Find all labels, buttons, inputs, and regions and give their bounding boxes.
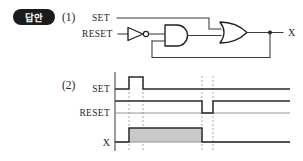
timing-label-x: X: [103, 137, 111, 148]
timing-diagram: SET RESET X: [0, 0, 303, 161]
answer-figure-page: 답안 (1) (2) SET RESET X: [0, 0, 303, 161]
timing-label-set: SET: [92, 84, 110, 94]
waveform-set: [115, 77, 290, 89]
waveform-reset: [115, 101, 290, 113]
timing-label-reset: RESET: [79, 108, 110, 118]
waveform-x-fill: [129, 128, 202, 142]
